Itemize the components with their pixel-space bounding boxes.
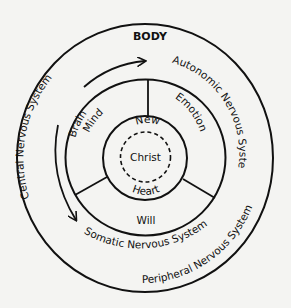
heart-label: Heart — [131, 182, 161, 197]
emotion-label: Emotion — [174, 90, 210, 133]
divider-right — [183, 179, 215, 198]
autonomic-arrow — [84, 61, 145, 87]
will-label: Will — [137, 214, 156, 226]
somatic-arrow — [55, 125, 76, 220]
spirit-soul-body-diagram: BODY Central Nervous System Peripheral N… — [0, 0, 291, 308]
christ-label: Christ — [130, 151, 161, 163]
divider-left — [75, 177, 107, 195]
new-label: New — [134, 113, 162, 127]
body-title: BODY — [133, 30, 168, 43]
